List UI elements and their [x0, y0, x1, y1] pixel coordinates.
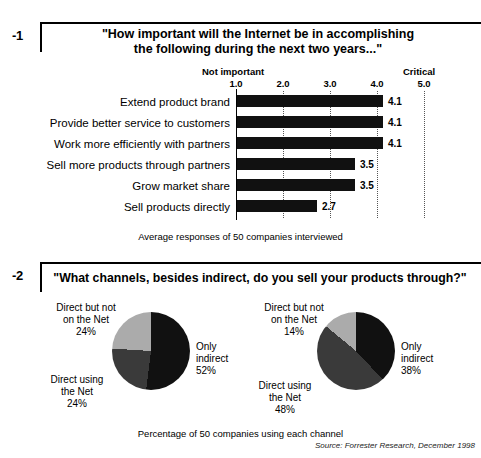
bar-category-label: Grow market share: [20, 180, 230, 192]
axis-label-not-important: Not important: [202, 66, 264, 77]
pie-left-only-indirect-line1: Only: [196, 341, 266, 353]
pie-right-using-net-line2: the Net: [244, 392, 326, 404]
bar-work-more-efficiently: [237, 137, 383, 149]
pie-right-only-indirect-line2: indirect: [401, 353, 471, 365]
pie-right-only-indirect-pct: 38%: [401, 365, 471, 377]
pie-left-not-net-line2: on the Net: [44, 314, 128, 326]
bar-grow-market-share: [237, 179, 355, 191]
pie-right-label-direct-not-on-net: Direct but not on the Net 14%: [252, 302, 336, 338]
bar-sell-products-directly: [237, 200, 317, 212]
bar-category-label: Work more efficiently with partners: [20, 138, 230, 150]
panel-2-bracket-left-rule: [40, 262, 42, 292]
pie-left-using-net-line1: Direct using: [36, 374, 118, 386]
pie-left-using-net-pct: 24%: [36, 398, 118, 410]
bar-category-label: Provide better service to customers: [20, 117, 230, 129]
pie-right-not-net-line1: Direct but not: [252, 302, 336, 314]
pie-right-label-direct-using-net: Direct using the Net 48%: [244, 380, 326, 416]
pie-right-not-net-line2: on the Net: [252, 314, 336, 326]
pie-left-label-direct-using-net: Direct using the Net 24%: [36, 374, 118, 410]
pie-left-label-only-indirect: Only indirect 52%: [196, 341, 266, 377]
bar-value-label: 3.5: [360, 159, 374, 170]
pie-right-using-net-pct: 48%: [244, 404, 326, 416]
gridline-2: [283, 91, 285, 218]
pie-left-only-indirect-pct: 52%: [196, 365, 266, 377]
pie-left-label-direct-not-on-net: Direct but not on the Net 24%: [44, 302, 128, 338]
panel-2-caption: Percentage of 50 companies using each ch…: [0, 428, 481, 439]
panel-2-bracket-top-rule: [40, 262, 481, 264]
panel-2-question-title: "What channels, besides indirect, do you…: [50, 271, 470, 286]
bar-category-label: Sell more products through partners: [20, 159, 230, 171]
source-note: Source: Forrester Research, December 199…: [315, 441, 475, 450]
pie-left-using-net-line2: the Net: [36, 386, 118, 398]
bar-provide-better-service: [237, 116, 383, 128]
pie-right-label-only-indirect: Only indirect 38%: [401, 341, 471, 377]
pie-right-only-indirect-line1: Only: [401, 341, 471, 353]
gridline-4: [377, 91, 379, 218]
x-tick-label-5: 5.0: [409, 78, 439, 89]
bar-extend-product-brand: [237, 95, 383, 107]
bar-category-label: Extend product brand: [20, 96, 230, 108]
bar-sell-more-through-partners: [237, 158, 355, 170]
gridline-5: [424, 91, 426, 218]
x-tick-label-4: 4.0: [362, 78, 392, 89]
panel-1-caption: Average responses of 50 companies interv…: [0, 231, 481, 242]
pie-right-using-net-line1: Direct using: [244, 380, 326, 392]
x-tick-label-1: 1.0: [221, 78, 251, 89]
pie-right-not-net-pct: 14%: [252, 326, 336, 338]
axis-label-critical: Critical: [403, 66, 435, 77]
pie-left-not-net-line1: Direct but not: [44, 302, 128, 314]
panel-2-marker: -2: [12, 268, 23, 283]
bar-value-label: 2.7: [322, 201, 336, 212]
bar-value-label: 4.1: [388, 96, 402, 107]
gridline-3: [330, 91, 332, 218]
bar-value-label: 4.1: [388, 117, 402, 128]
bar-value-label: 4.1: [388, 138, 402, 149]
x-tick-label-2: 2.0: [268, 78, 298, 89]
pie-left-only-indirect-line2: indirect: [196, 353, 266, 365]
figure-page: -1 "How important will the Internet be i…: [0, 0, 481, 458]
panel-1: -1 "How important will the Internet be i…: [0, 0, 481, 250]
bar-category-label: Sell products directly: [20, 201, 230, 213]
bar-value-label: 3.5: [360, 180, 374, 191]
pie-left-not-net-pct: 24%: [44, 326, 128, 338]
x-tick-label-3: 3.0: [315, 78, 345, 89]
